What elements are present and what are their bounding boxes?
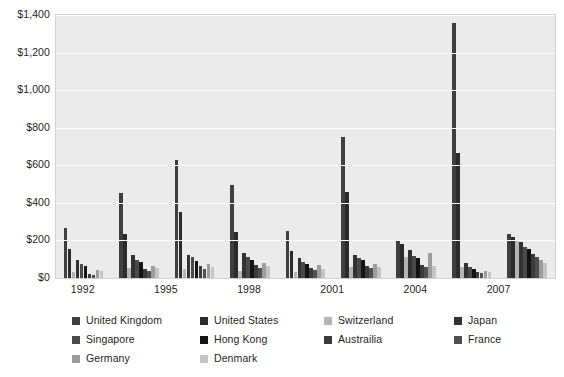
- legend-label: France: [468, 334, 501, 345]
- bar-group: [175, 15, 215, 278]
- legend-item[interactable]: Denmark: [200, 349, 257, 368]
- legend-item[interactable]: France: [454, 330, 501, 349]
- x-tick-label: 2001: [302, 283, 362, 295]
- legend-label: Switzerland: [338, 315, 393, 326]
- bar: [543, 263, 547, 278]
- legend-item[interactable]: Austrailia: [324, 330, 382, 349]
- plot-area: [56, 15, 555, 278]
- bar-chart: $0$200$400$600$800$1,000$1,200$1,400 199…: [0, 0, 564, 377]
- legend-swatch-icon: [200, 355, 208, 363]
- x-tick-label: 1992: [53, 283, 113, 295]
- legend-label: Japan: [468, 315, 497, 326]
- gridline: [56, 15, 555, 16]
- legend-item[interactable]: Germany: [72, 349, 130, 368]
- bar-group: [119, 15, 159, 278]
- bar: [211, 267, 215, 278]
- gridline: [56, 128, 555, 129]
- x-tick-label: 1995: [136, 283, 196, 295]
- bar-group: [396, 15, 436, 278]
- bar: [100, 271, 104, 278]
- y-tick-label: $400: [2, 197, 50, 208]
- bar: [432, 266, 436, 278]
- bar: [456, 153, 460, 278]
- bar: [345, 192, 349, 278]
- legend-row: SingaporeHong KongAustrailiaFrance: [72, 330, 542, 349]
- gridline: [56, 240, 555, 241]
- bar: [266, 266, 270, 278]
- y-tick-label: $1,200: [2, 47, 50, 58]
- legend-label: United States: [214, 315, 278, 326]
- x-tick-label: 2004: [385, 283, 445, 295]
- x-tick-label: 1998: [219, 283, 279, 295]
- legend-swatch-icon: [200, 336, 208, 344]
- plot-frame: [55, 14, 556, 279]
- legend-label: Denmark: [214, 353, 257, 364]
- bar-group: [341, 15, 381, 278]
- bar-group: [64, 15, 104, 278]
- gridline: [56, 53, 555, 54]
- y-axis: $0$200$400$600$800$1,000$1,200$1,400: [0, 0, 50, 295]
- legend-label: Austrailia: [338, 334, 382, 345]
- legend-item[interactable]: Japan: [454, 311, 497, 330]
- y-tick-label: $200: [2, 234, 50, 245]
- y-tick-label: $1,000: [2, 84, 50, 95]
- legend-item[interactable]: United Kingdom: [72, 311, 162, 330]
- legend-item[interactable]: Hong Kong: [200, 330, 267, 349]
- bar-group: [286, 15, 326, 278]
- legend-label: Germany: [86, 353, 130, 364]
- x-axis: 199219951998200120042007: [55, 283, 556, 301]
- legend-swatch-icon: [324, 336, 332, 344]
- legend-swatch-icon: [454, 336, 462, 344]
- y-tick-label: $0: [2, 272, 50, 283]
- legend-swatch-icon: [72, 317, 80, 325]
- legend-item[interactable]: United States: [200, 311, 278, 330]
- legend-swatch-icon: [200, 317, 208, 325]
- y-tick-label: $1,400: [2, 9, 50, 20]
- legend-label: Singapore: [86, 334, 135, 345]
- bar: [488, 272, 492, 278]
- legend-item[interactable]: Singapore: [72, 330, 135, 349]
- x-tick-label: 2007: [469, 283, 529, 295]
- y-tick-label: $600: [2, 159, 50, 170]
- bar: [377, 267, 381, 278]
- legend-label: Hong Kong: [214, 334, 267, 345]
- legend-swatch-icon: [324, 317, 332, 325]
- gridline: [56, 203, 555, 204]
- legend-swatch-icon: [72, 336, 80, 344]
- bar: [155, 268, 159, 278]
- chart-legend: United KingdomUnited StatesSwitzerlandJa…: [72, 311, 542, 371]
- bar-group: [452, 15, 492, 278]
- legend-swatch-icon: [72, 355, 80, 363]
- gridline: [56, 90, 555, 91]
- legend-row: United KingdomUnited StatesSwitzerlandJa…: [72, 311, 542, 330]
- y-tick-label: $800: [2, 122, 50, 133]
- bar-group: [507, 15, 547, 278]
- legend-item[interactable]: Switzerland: [324, 311, 393, 330]
- gridline: [56, 165, 555, 166]
- legend-label: United Kingdom: [86, 315, 162, 326]
- bar-group: [230, 15, 270, 278]
- legend-row: GermanyDenmark: [72, 349, 542, 368]
- legend-swatch-icon: [454, 317, 462, 325]
- bar: [321, 269, 325, 278]
